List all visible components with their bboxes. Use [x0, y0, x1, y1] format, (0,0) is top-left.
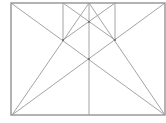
point-P3 — [88, 21, 90, 23]
point-P1 — [62, 39, 64, 41]
segment-D-T2 — [12, 3, 89, 115]
point-P4 — [88, 58, 90, 60]
point-P2 — [114, 39, 116, 41]
segment-C-T2 — [89, 3, 165, 115]
geometric-diagram — [0, 0, 166, 123]
